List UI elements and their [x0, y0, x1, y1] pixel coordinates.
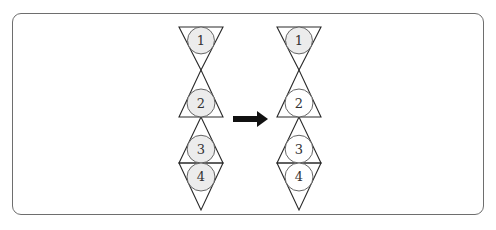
- right-circle-label-2: 2: [295, 96, 303, 111]
- left-circle-label-4: 4: [197, 169, 205, 184]
- arrow-icon: [233, 111, 268, 127]
- right-circle-label-3: 3: [295, 142, 303, 157]
- right-figure: 1234: [277, 27, 321, 210]
- right-circle-label-4: 4: [295, 169, 303, 184]
- left-figure: 1234: [179, 27, 223, 210]
- diagram-canvas: 1234 1234: [0, 0, 496, 230]
- left-circle-label-2: 2: [197, 96, 205, 111]
- left-circle-label-1: 1: [197, 33, 205, 48]
- left-circle-label-3: 3: [197, 142, 205, 157]
- right-circle-label-1: 1: [295, 33, 303, 48]
